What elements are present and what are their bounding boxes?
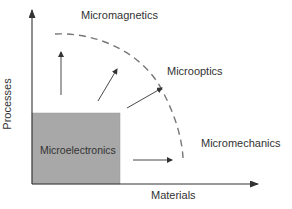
arrow-right-up-icon (127, 88, 162, 108)
y-axis-label: Processes (1, 78, 13, 129)
microoptics-label: Microoptics (167, 65, 223, 77)
micromechanics-label: Micromechanics (201, 137, 280, 149)
micromagnetics-label: Micromagnetics (81, 9, 158, 21)
x-axis-label: Materials (151, 189, 196, 201)
microelectronics-label: Microelectronics (40, 144, 116, 156)
diagram-canvas (0, 0, 292, 209)
arrow-up-right-icon (98, 69, 117, 101)
